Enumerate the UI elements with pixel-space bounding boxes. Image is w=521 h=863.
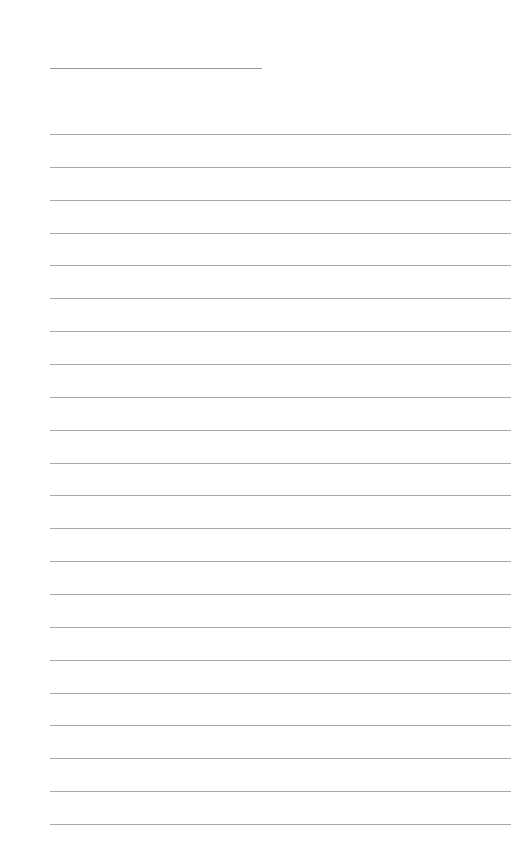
ruled-line xyxy=(50,331,511,332)
ruled-line xyxy=(50,627,511,628)
ruled-line xyxy=(50,528,511,529)
ruled-line xyxy=(50,298,511,299)
ruled-line xyxy=(50,167,511,168)
ruled-line xyxy=(50,791,511,792)
ruled-line xyxy=(50,430,511,431)
ruled-line xyxy=(50,725,511,726)
ruled-line xyxy=(50,824,511,825)
ruled-line xyxy=(50,463,511,464)
ruled-line xyxy=(50,397,511,398)
ruled-line xyxy=(50,265,511,266)
ruled-line xyxy=(50,758,511,759)
ruled-line xyxy=(50,561,511,562)
ruled-line xyxy=(50,233,511,234)
ruled-line xyxy=(50,594,511,595)
ruled-line xyxy=(50,364,511,365)
title-underline xyxy=(50,68,262,69)
ruled-line xyxy=(50,495,511,496)
ruled-line xyxy=(50,693,511,694)
ruled-line xyxy=(50,200,511,201)
ruled-line xyxy=(50,134,511,135)
lined-paper-page xyxy=(0,0,521,863)
ruled-line xyxy=(50,660,511,661)
